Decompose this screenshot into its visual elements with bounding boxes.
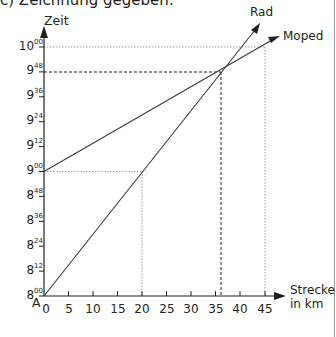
- x-tick-label: 5: [65, 302, 73, 316]
- y-axis-label: Zeit: [44, 15, 69, 27]
- chart-canvas: [0, 0, 336, 337]
- x-tick-label: 0: [42, 302, 50, 316]
- x-tick-label: 20: [134, 302, 149, 316]
- y-tick-label: 900: [26, 163, 43, 177]
- y-tick-label: 800: [26, 288, 43, 302]
- x-tick-label: 15: [110, 302, 125, 316]
- y-tick-label: 824: [26, 238, 43, 252]
- y-tick-label: 848: [26, 188, 43, 202]
- y-tick-label: 1000: [19, 39, 43, 53]
- series-moped-line: [44, 36, 280, 172]
- y-tick-label: 836: [26, 213, 43, 227]
- x-tick-label: 25: [159, 302, 174, 316]
- x-axis-label-line1: Strecke: [290, 284, 335, 296]
- series-label-rad: Rad: [250, 6, 273, 18]
- y-tick-label: 936: [26, 88, 43, 102]
- y-tick-label: 948: [26, 63, 43, 77]
- x-axis-label-line2: in km: [290, 298, 323, 310]
- x-tick-label: 40: [232, 302, 247, 316]
- y-tick-label: 924: [26, 113, 43, 127]
- series-label-moped: Moped: [283, 30, 323, 42]
- x-ticks: [69, 291, 266, 296]
- x-tick-label: 10: [85, 302, 100, 316]
- x-tick-label: 35: [208, 302, 223, 316]
- y-tick-label: 812: [26, 263, 43, 277]
- x-tick-label: 45: [257, 302, 272, 316]
- series-rad-line: [44, 23, 260, 296]
- guide-lines: [44, 47, 265, 296]
- x-axis: [44, 292, 286, 300]
- y-tick-label: 912: [26, 138, 43, 152]
- x-tick-label: 30: [183, 302, 198, 316]
